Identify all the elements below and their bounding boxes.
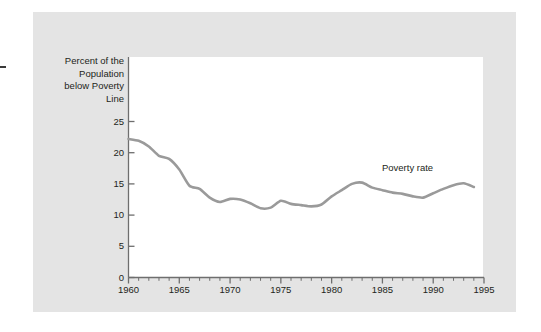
y-tick-label-0: 0	[96, 273, 124, 283]
x-tick-label-1990: 1990	[413, 285, 453, 295]
poverty-rate-figure: Percent of the Population below Poverty …	[0, 0, 541, 332]
y-tick-label-15: 15	[96, 179, 124, 189]
y-tick-label-5: 5	[96, 241, 124, 251]
y-tick-label-20: 20	[96, 148, 124, 158]
x-axis-ticks	[129, 278, 485, 284]
x-tick-label-1970: 1970	[210, 285, 250, 295]
y-tick-label-25: 25	[96, 117, 124, 127]
x-tick-label-1985: 1985	[362, 285, 402, 295]
x-tick-label-1965: 1965	[159, 285, 199, 295]
series-annotation-poverty-rate: Poverty rate	[382, 162, 433, 173]
chart-canvas	[0, 0, 541, 332]
y-axis-ticks	[129, 122, 135, 278]
x-tick-label-1975: 1975	[261, 285, 301, 295]
x-tick-label-1980: 1980	[312, 285, 352, 295]
poverty-rate-line	[129, 139, 474, 209]
x-tick-label-1960: 1960	[109, 285, 149, 295]
y-tick-label-10: 10	[96, 210, 124, 220]
x-tick-label-1995: 1995	[464, 285, 504, 295]
